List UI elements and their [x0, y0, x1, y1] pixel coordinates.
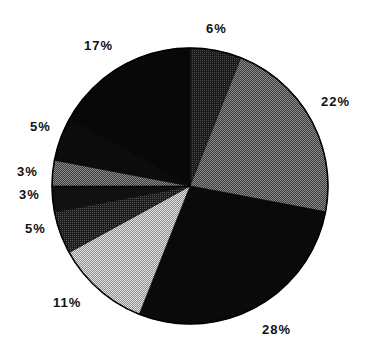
- slice-label: 28%: [262, 322, 291, 337]
- slice-label: 5%: [30, 119, 51, 134]
- slice-label: 3%: [19, 187, 40, 202]
- slice-label: 17%: [84, 38, 113, 53]
- slice-label: 3%: [17, 164, 38, 179]
- pie-slices: [52, 48, 328, 324]
- slice-label: 22%: [321, 94, 350, 109]
- slice-label: 11%: [53, 295, 81, 310]
- pie-chart: 6%22%28%11%5%3%3%5%17%: [0, 0, 383, 362]
- slice-label: 6%: [206, 21, 227, 36]
- slice-label: 5%: [25, 221, 46, 236]
